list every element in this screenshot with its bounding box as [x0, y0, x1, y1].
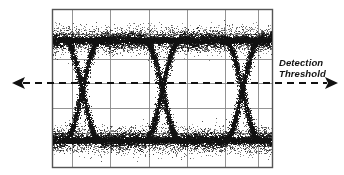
detection-threshold-label-line2: Threshold: [279, 68, 326, 79]
eye-diagram-canvas: [0, 0, 344, 175]
detection-threshold-label-line1: Detection: [279, 57, 323, 68]
eye-diagram-figure: DetectionThreshold: [0, 0, 344, 175]
detection-threshold-label: DetectionThreshold: [279, 57, 326, 79]
